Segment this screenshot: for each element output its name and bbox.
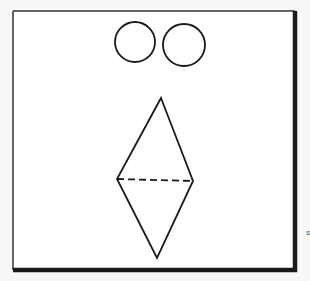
diagram-canvas xyxy=(0,0,310,281)
margin-mark: s xyxy=(306,228,310,237)
